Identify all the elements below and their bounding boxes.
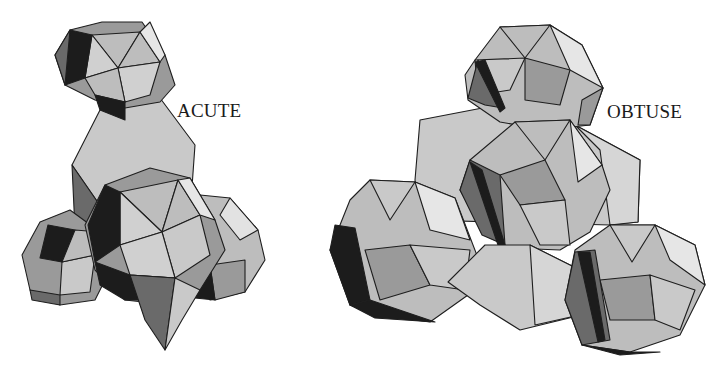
obtuse-label: OBTUSE xyxy=(607,101,682,123)
acute-label: ACUTE xyxy=(177,100,241,122)
acute-polyhedra-cluster xyxy=(0,0,300,379)
obtuse-polyhedra-cluster xyxy=(320,0,726,379)
acute-polyhedra-drawing xyxy=(0,0,300,379)
obtuse-polyhedra-drawing xyxy=(320,0,726,379)
